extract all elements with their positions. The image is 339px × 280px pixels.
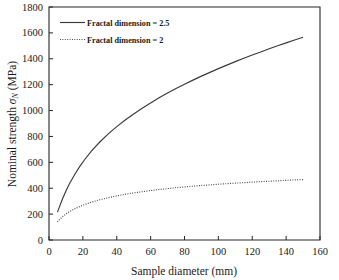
x-tick-label: 100 [211, 246, 227, 257]
x-axis-ticks: 020406080100120140160 [46, 236, 328, 257]
legend-label-0: Fractal dimension = 2.5 [87, 19, 169, 28]
y-tick-label: 600 [27, 157, 43, 168]
x-tick-label: 40 [112, 246, 123, 257]
svg-text:Nominal strength σN (MPa): Nominal strength σN (MPa) [6, 61, 20, 187]
x-tick-label: 120 [244, 246, 260, 257]
legend-label-1: Fractal dimension = 2 [87, 36, 163, 45]
data-curves [57, 37, 303, 222]
x-axis-title: Sample diameter (mm) [131, 265, 237, 278]
x-tick-label: 80 [179, 246, 190, 257]
y-tick-label: 0 [38, 235, 43, 246]
y-tick-label: 400 [27, 183, 43, 194]
y-tick-label: 800 [27, 131, 43, 142]
y-tick-label: 1200 [22, 79, 43, 90]
x-tick-label: 160 [312, 246, 328, 257]
chart-legend: Fractal dimension = 2.5 Fractal dimensio… [60, 19, 169, 45]
y-tick-label: 1000 [22, 105, 43, 116]
x-tick-label: 140 [278, 246, 294, 257]
y-tick-label: 1600 [22, 27, 43, 38]
curve-fractal-dimension-2 [57, 180, 303, 222]
curve-fractal-dimension-2-5 [57, 37, 303, 212]
y-axis-ticks: 020040060080010001200140016001800 [22, 2, 53, 246]
y-axis-title-prefix: Nominal strength [6, 104, 19, 187]
x-tick-label: 60 [145, 246, 156, 257]
figure-container: 020040060080010001200140016001800 020406… [0, 0, 339, 280]
x-tick-label: 20 [78, 246, 89, 257]
y-axis-title: Nominal strength σN (MPa) [6, 61, 20, 187]
chart-svg: 020040060080010001200140016001800 020406… [0, 0, 339, 280]
y-axis-title-suffix: (MPa) [6, 61, 19, 93]
y-tick-label: 200 [27, 209, 43, 220]
y-tick-label: 1800 [22, 2, 43, 13]
y-tick-label: 1400 [22, 53, 43, 64]
x-tick-label: 0 [46, 246, 51, 257]
